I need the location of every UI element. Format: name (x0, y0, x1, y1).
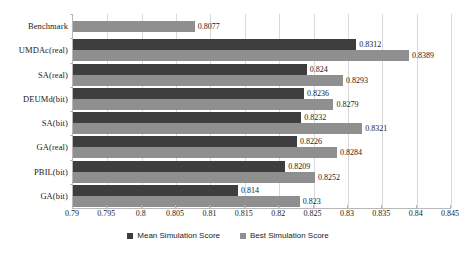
bar-value-label: 0.8226 (300, 137, 322, 146)
category-label: GA(bit) (40, 191, 68, 201)
x-axis-tick-label: 0.845 (441, 209, 459, 218)
bar-item: 0.8252 (73, 172, 340, 183)
bar-value-label: 0.8312 (359, 40, 381, 49)
bar-value-label: 0.8209 (288, 162, 310, 171)
bar-item: 0.8236 (73, 88, 329, 99)
bar-item: 0.8312 (73, 39, 381, 50)
bar-mean (73, 136, 297, 147)
bar-group: SA(real)0.8240.8293 (73, 63, 450, 87)
plot-area: Benchmark0.8077UMDAc(real)0.83120.8389SA… (72, 14, 450, 208)
x-axis-tick-label: 0.82 (271, 209, 285, 218)
category-label: SA(bit) (42, 118, 68, 128)
x-axis-tick-labels: 0.790.7950.80.8050.810.8150.820.8250.830… (72, 209, 450, 223)
bar-best (73, 21, 195, 32)
bar-group: PBIL(bit)0.82090.8252 (73, 160, 450, 184)
bar-item: 0.8226 (73, 136, 322, 147)
bar-group: GA(bit)0.8140.823 (73, 184, 450, 208)
x-axis-tick-label: 0.795 (97, 209, 115, 218)
category-label: UMDAc(real) (19, 45, 68, 55)
bar-best (73, 172, 315, 183)
bar-item: 0.8209 (73, 161, 310, 172)
bar-value-label: 0.8077 (198, 22, 220, 31)
chart-legend: Mean Simulation ScoreBest Simulation Sco… (0, 231, 456, 240)
bar-mean (73, 64, 307, 75)
bar-item: 0.8232 (73, 112, 326, 123)
bar-mean (73, 88, 304, 99)
legend-label: Mean Simulation Score (137, 231, 220, 240)
bar-value-label: 0.8293 (346, 76, 368, 85)
bar-mean (73, 185, 238, 196)
x-axis-tick-label: 0.825 (304, 209, 322, 218)
bar-mean (73, 39, 356, 50)
x-axis-tick-label: 0.835 (372, 209, 390, 218)
category-label: GA(real) (37, 142, 68, 152)
legend-item[interactable]: Best Simulation Score (240, 231, 329, 240)
x-axis-tick-label: 0.8 (136, 209, 146, 218)
legend-swatch-icon (127, 233, 133, 239)
bar-item: 0.8284 (73, 147, 362, 158)
bar-mean (73, 112, 301, 123)
bar-item: 0.823 (73, 196, 321, 207)
bar-mean (73, 161, 285, 172)
legend-swatch-icon (240, 233, 246, 239)
bar-value-label: 0.8321 (365, 124, 387, 133)
bar-value-label: 0.814 (241, 186, 259, 195)
y-axis-tick (70, 14, 73, 15)
x-axis-tick-label: 0.815 (235, 209, 253, 218)
x-axis-tick-label: 0.83 (340, 209, 354, 218)
bar-item: 0.8077 (73, 21, 220, 32)
bar-group: Benchmark0.8077 (73, 14, 450, 38)
category-label: SA(real) (38, 70, 68, 80)
x-axis-tick-label: 0.81 (202, 209, 216, 218)
bar-value-label: 0.8284 (340, 148, 362, 157)
bar-item: 0.824 (73, 64, 328, 75)
bar-best (73, 75, 343, 86)
x-axis-tick-label: 0.84 (409, 209, 423, 218)
bar-item: 0.8321 (73, 123, 387, 134)
bar-value-label: 0.8279 (336, 100, 358, 109)
bar-best (73, 50, 409, 61)
legend-item[interactable]: Mean Simulation Score (127, 231, 220, 240)
bar-group: GA(real)0.82260.8284 (73, 135, 450, 159)
bar-item: 0.814 (73, 185, 259, 196)
legend-label: Best Simulation Score (250, 231, 329, 240)
category-label: DEUMd(bit) (23, 94, 68, 104)
bar-value-label: 0.8232 (304, 113, 326, 122)
bar-item: 0.8293 (73, 75, 368, 86)
x-axis-tick-label: 0.805 (166, 209, 184, 218)
bar-value-label: 0.824 (310, 65, 328, 74)
bar-group: DEUMd(bit)0.82360.8279 (73, 87, 450, 111)
bar-group: SA(bit)0.82320.8321 (73, 111, 450, 135)
bar-item: 0.8389 (73, 50, 434, 61)
bar-item: 0.8279 (73, 99, 358, 110)
bar-best (73, 147, 337, 158)
bar-rows: Benchmark0.8077UMDAc(real)0.83120.8389SA… (73, 14, 450, 208)
bar-best (73, 123, 362, 134)
bar-value-label: 0.8252 (318, 173, 340, 182)
x-axis-tick-label: 0.79 (65, 209, 79, 218)
category-label: PBIL(bit) (34, 167, 68, 177)
bar-value-label: 0.8236 (307, 89, 329, 98)
bar-best (73, 99, 333, 110)
category-label: Benchmark (28, 21, 68, 31)
bar-value-label: 0.8389 (412, 51, 434, 60)
bar-group: UMDAc(real)0.83120.8389 (73, 38, 450, 62)
gridline (451, 14, 452, 208)
